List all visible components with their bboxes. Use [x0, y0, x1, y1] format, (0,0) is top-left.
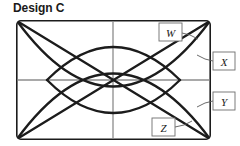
callout-z-label: Z — [160, 122, 167, 134]
diagram-canvas: W X Y Z — [0, 0, 240, 146]
design-figure: Design C — [0, 0, 240, 146]
callout-x-label: X — [220, 56, 229, 68]
callout-w-label: W — [166, 27, 176, 39]
